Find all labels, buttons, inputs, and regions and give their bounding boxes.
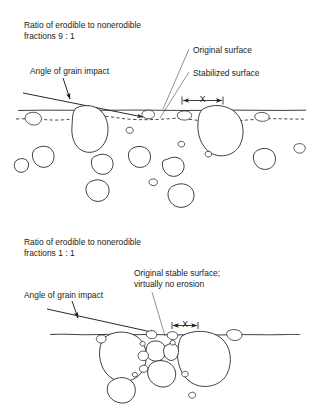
rock-cluster-mid-right-bottom bbox=[164, 344, 179, 361]
rock-cluster-right-large-bottom bbox=[178, 331, 231, 386]
top-panel-artwork: X bbox=[14, 49, 306, 207]
dimension-marker-x-top: X bbox=[182, 94, 223, 104]
rock-grain-4-bottom bbox=[189, 392, 196, 398]
erosion-figure: Ratio of erodible to nonerodible fractio… bbox=[0, 0, 317, 417]
rock-surface-a-bottom bbox=[146, 331, 157, 339]
rock-scatter-5-top bbox=[253, 148, 275, 169]
rock-cluster-small-1-bottom bbox=[138, 351, 148, 361]
rock-cluster-lower-left-bottom bbox=[107, 378, 135, 403]
dimension-label-x-bottom: X bbox=[182, 319, 188, 329]
rock-surface-b-top bbox=[177, 111, 191, 120]
rock-cluster-small-2-bottom bbox=[139, 365, 147, 372]
rock-cluster-mid-upper-bottom bbox=[146, 341, 166, 361]
angle-pointer-top bbox=[63, 78, 70, 99]
rock-scatter-4-top bbox=[162, 157, 184, 176]
rock-surface-d-bottom bbox=[96, 335, 106, 343]
rock-grain-3-bottom bbox=[182, 371, 189, 377]
diagram-canvas: X bbox=[0, 0, 317, 417]
rock-large-left-top bbox=[72, 106, 108, 153]
rock-surface-c-bottom bbox=[227, 330, 242, 341]
rock-large-right-top bbox=[198, 106, 243, 156]
bottom-panel-artwork: X bbox=[47, 292, 300, 403]
grain-impact-line-bottom bbox=[47, 309, 156, 333]
rock-grain-2-bottom bbox=[170, 340, 175, 345]
rock-scatter-11-top bbox=[14, 159, 28, 173]
rock-scatter-10-top bbox=[205, 151, 212, 157]
rock-grain-5-bottom bbox=[132, 372, 137, 377]
dimension-marker-x-bottom: X bbox=[172, 319, 198, 329]
rock-scatter-3-top bbox=[128, 146, 150, 167]
rock-surface-a-top bbox=[142, 110, 155, 119]
rock-scatter-9-top bbox=[168, 184, 194, 208]
rock-mid-small-2-top bbox=[178, 141, 185, 147]
rock-cluster-mid-lower-bottom bbox=[148, 361, 176, 387]
rock-scatter-6-top bbox=[294, 144, 305, 154]
leader-original-surface bbox=[163, 49, 189, 109]
rock-scatter-1-top bbox=[32, 146, 54, 167]
rock-surface-left-top bbox=[25, 112, 41, 125]
leader-original-stable-surface bbox=[152, 292, 165, 336]
rock-scatter-8-top bbox=[86, 180, 109, 202]
rock-surface-b-bottom bbox=[167, 332, 178, 340]
dimension-label-x-top: X bbox=[200, 94, 206, 104]
rock-grain-1-bottom bbox=[140, 341, 145, 346]
rock-surface-c-top bbox=[255, 112, 269, 121]
rock-scatter-7-top bbox=[149, 179, 157, 186]
rock-mid-small-1-top bbox=[126, 127, 133, 133]
rock-scatter-2-top bbox=[91, 154, 113, 174]
